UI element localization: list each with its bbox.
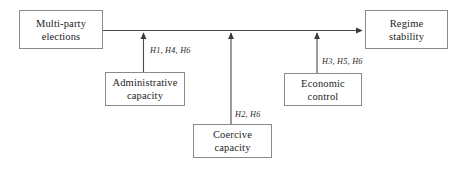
node-regime-stability: Regime stability xyxy=(365,10,448,49)
node-multi-party-elections: Multi-party elections xyxy=(19,10,103,49)
diagram-canvas: Multi-party elections Regime stability A… xyxy=(0,0,461,173)
node-multi-party-elections-label: Multi-party elections xyxy=(36,17,86,43)
node-economic-control-label: Economic control xyxy=(301,77,345,103)
node-economic-control: Economic control xyxy=(284,73,362,106)
edge-label-administrative: H1, H4, H6 xyxy=(150,46,191,55)
edge-label-coercive: H2, H6 xyxy=(235,110,261,119)
node-coercive-capacity: Coercive capacity xyxy=(193,124,272,158)
node-regime-stability-label: Regime stability xyxy=(389,17,424,43)
node-coercive-capacity-label: Coercive capacity xyxy=(213,128,252,154)
edge-label-economic: H3, H5, H6 xyxy=(322,57,363,66)
node-administrative-capacity: Administrative capacity xyxy=(105,72,185,106)
node-administrative-capacity-label: Administrative capacity xyxy=(112,76,177,102)
